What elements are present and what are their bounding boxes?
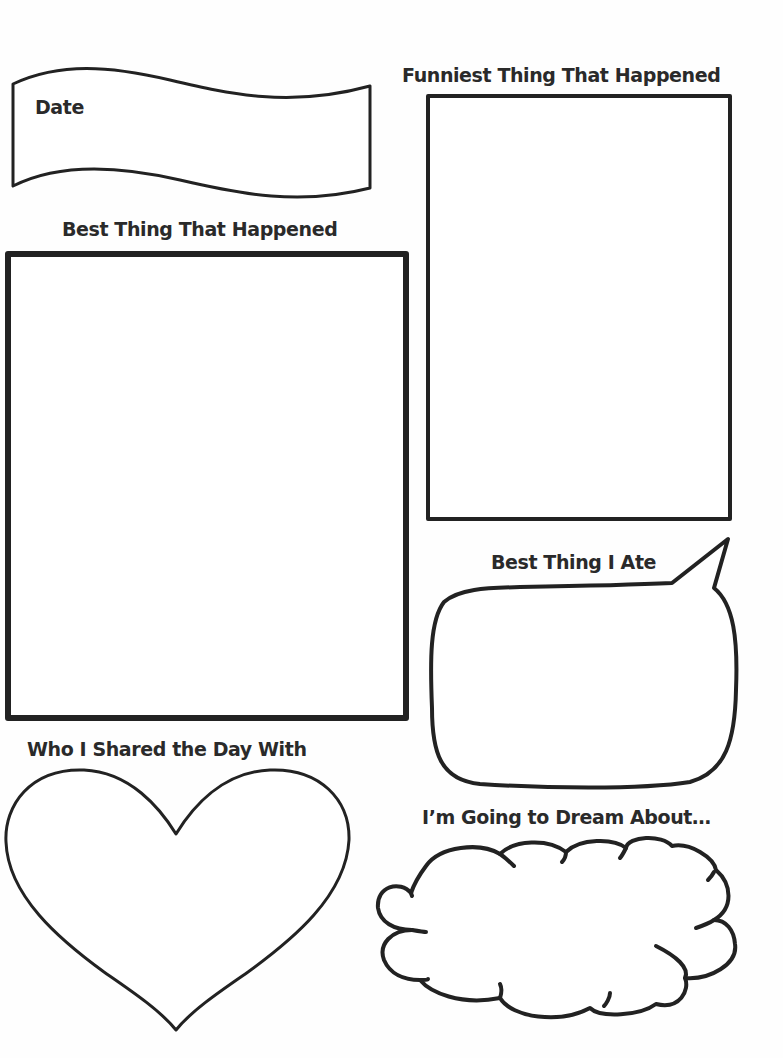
funniest-thing-input[interactable] — [440, 108, 722, 512]
funniest-thing-heading: Funniest Thing That Happened — [402, 66, 720, 85]
dream-about-heading: I’m Going to Dream About… — [422, 808, 711, 827]
date-input[interactable] — [30, 126, 354, 174]
journal-page: Date Best Thing That Happened Funniest T… — [0, 0, 783, 1058]
shared-with-input[interactable] — [40, 800, 320, 954]
best-thing-input[interactable] — [20, 266, 398, 710]
best-thing-heading: Best Thing That Happened — [62, 220, 337, 239]
date-label: Date — [35, 98, 84, 117]
best-food-heading: Best Thing I Ate — [491, 553, 656, 572]
shared-with-heading: Who I Shared the Day With — [27, 740, 307, 759]
dream-about-input[interactable] — [410, 872, 714, 986]
best-food-input[interactable] — [448, 602, 728, 774]
